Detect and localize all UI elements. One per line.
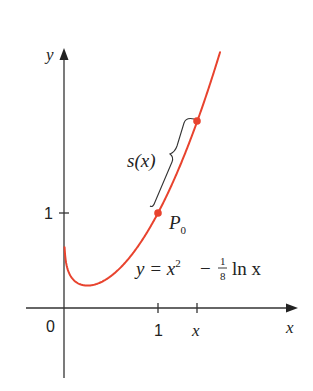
point-sx (193, 117, 201, 125)
equation-label: y = x2 − 1 8 ln x (134, 255, 262, 282)
arc-length-brace (150, 119, 194, 207)
y-axis-label: y (44, 45, 54, 64)
svg-text:y = x2: y = x2 (134, 257, 181, 279)
chart-canvas: y x 0 1 x 1 s(x) P0 y = x2 − 1 8 ln x (0, 0, 313, 391)
svg-text:−: − (200, 258, 211, 279)
y-tick-1-label: 1 (44, 205, 53, 222)
x-axis-label: x (285, 318, 294, 337)
point-P0 (154, 209, 162, 217)
svg-text:1: 1 (220, 255, 226, 267)
x-tick-1-label: 1 (154, 322, 163, 339)
x-tick-x-label: x (191, 321, 200, 340)
origin-label: 0 (46, 318, 55, 335)
point-P0-label: P0 (168, 212, 187, 236)
svg-text:ln x: ln x (232, 258, 262, 279)
svg-text:8: 8 (220, 270, 226, 282)
y-axis-arrow-icon (60, 48, 69, 60)
arc-length-label: s(x) (127, 150, 155, 172)
x-axis-arrow-icon (286, 304, 298, 313)
